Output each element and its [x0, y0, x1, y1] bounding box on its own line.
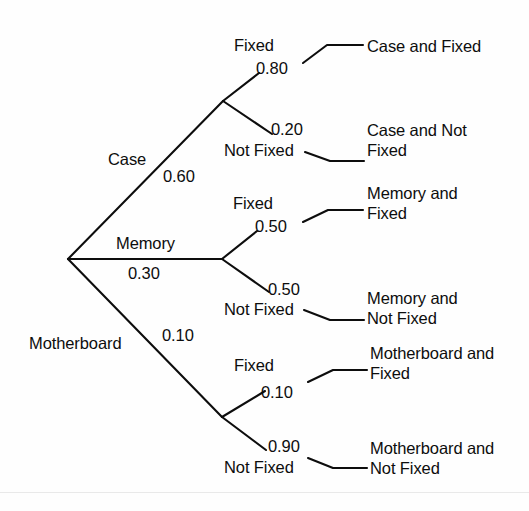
branch-label-motherboard: Motherboard [29, 334, 121, 353]
sub-label-motherboard-notfixed: Not Fixed [224, 458, 294, 477]
sub-prob-memory-notfixed: 0.50 [268, 280, 300, 299]
branch-line-motherboard-fixed [222, 391, 265, 417]
branch-line-memory-fixed [222, 231, 257, 259]
outcome-case-and-fixed: Case and Fixed [367, 36, 481, 56]
outcome-memory-and-fixed: Memory and Fixed [367, 183, 458, 223]
connector-memory-and-fixed [303, 210, 363, 222]
branch-line-case-fixed [223, 73, 259, 101]
branch-label-memory: Memory [116, 234, 175, 253]
scan-edge-line [0, 492, 529, 493]
sub-label-memory-notfixed: Not Fixed [224, 300, 294, 319]
connector-motherboard-and-fixed [308, 370, 367, 382]
outcome-motherboard-and-not-fixed: Motherboard and Not Fixed [370, 438, 494, 478]
sub-label-motherboard-fixed: Fixed [234, 356, 274, 375]
connector-memory-and-not-fixed [304, 310, 364, 320]
sub-prob-case-notfixed: 0.20 [271, 120, 303, 139]
branch-prob-case: 0.60 [163, 167, 195, 186]
sub-label-memory-fixed: Fixed [233, 194, 273, 213]
probability-tree-diagram: Case 0.60 Memory 0.30 Motherboard 0.10 F… [0, 0, 529, 511]
branch-line-motherboard-notfixed [222, 417, 266, 450]
sub-prob-memory-fixed: 0.50 [255, 217, 287, 236]
sub-prob-motherboard-fixed: 0.10 [261, 383, 293, 402]
branch-line-case-notfixed [223, 101, 272, 134]
connector-motherboard-and-not-fixed [308, 458, 367, 468]
connector-case-and-fixed [303, 45, 363, 63]
branch-prob-memory: 0.30 [128, 264, 160, 283]
branch-prob-motherboard: 0.10 [162, 326, 194, 345]
sub-label-case-notfixed: Not Fixed [224, 141, 294, 160]
outcome-case-and-not-fixed: Case and Not Fixed [367, 120, 467, 160]
outcome-motherboard-and-fixed: Motherboard and Fixed [370, 343, 494, 383]
connector-case-and-not-fixed [305, 152, 364, 161]
branch-label-case: Case [108, 150, 146, 169]
sub-label-case-fixed: Fixed [234, 36, 274, 55]
sub-prob-motherboard-notfixed: 0.90 [268, 437, 300, 456]
outcome-memory-and-not-fixed: Memory and Not Fixed [367, 288, 458, 328]
sub-prob-case-fixed: 0.80 [256, 59, 288, 78]
branch-line-memory-notfixed [222, 259, 269, 292]
